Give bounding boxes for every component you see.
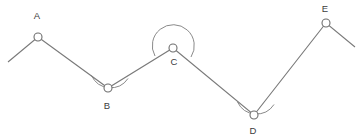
zigzag-polyline [8, 23, 355, 115]
vertex-marker-b [104, 84, 112, 92]
vertex-label-a: A [34, 10, 41, 21]
zigzag-angle-figure: A B C D E [0, 0, 361, 139]
vertex-marker-a [34, 33, 42, 41]
vertex-label-e: E [322, 3, 328, 14]
diagram-canvas: A B C D E [0, 0, 361, 139]
vertex-marker-c [169, 44, 177, 52]
vertex-label-b: B [104, 100, 110, 111]
vertex-label-d: D [250, 125, 257, 136]
vertex-label-c: C [171, 56, 178, 67]
vertex-marker-d [250, 111, 258, 119]
vertex-marker-e [322, 19, 330, 27]
